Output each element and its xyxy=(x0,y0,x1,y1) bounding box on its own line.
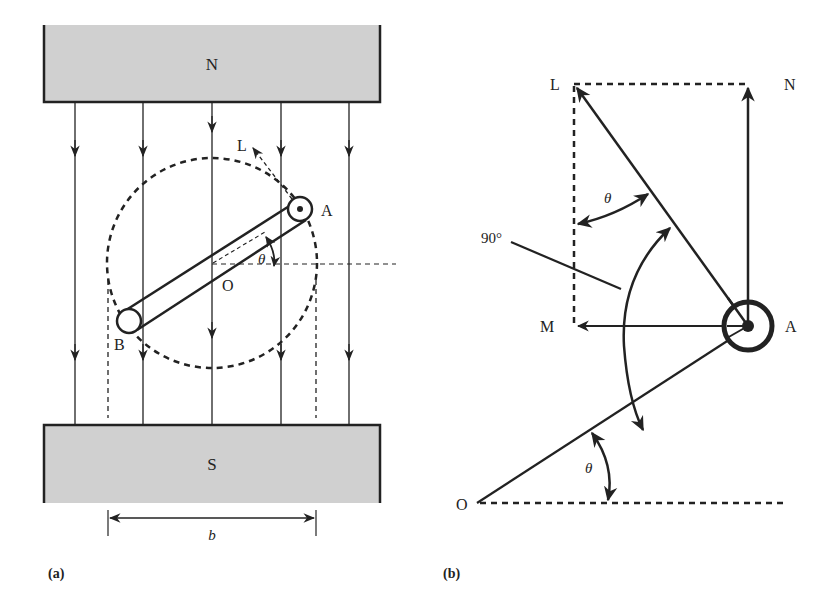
north-pole-label: N xyxy=(206,55,218,74)
velocity-arrow-l xyxy=(253,148,292,199)
label-a-b: A xyxy=(785,318,797,335)
north-magnet: N xyxy=(44,25,380,102)
label-theta-a: θ xyxy=(258,251,266,267)
south-pole-label: S xyxy=(207,455,216,474)
label-90-degrees: 90° xyxy=(481,230,502,246)
label-l-b: L xyxy=(550,76,560,93)
vector-al xyxy=(577,88,748,326)
panel-b: L N M A O θ θ 90° (b) xyxy=(443,76,797,582)
south-magnet: S xyxy=(44,425,380,503)
label-o-a: O xyxy=(222,277,234,294)
label-b-a: B xyxy=(114,336,125,353)
label-theta-top: θ xyxy=(604,190,612,206)
label-theta-bottom: θ xyxy=(585,460,593,476)
label-m-b: M xyxy=(540,318,554,335)
line-oa xyxy=(477,336,735,503)
label-o-b: O xyxy=(456,496,468,513)
label-n-b: N xyxy=(784,76,796,93)
dimension-b: b xyxy=(108,510,316,543)
coil xyxy=(117,197,312,333)
angle-arc-90 xyxy=(624,228,670,430)
caption-a: (a) xyxy=(48,566,65,582)
angle-arc-top xyxy=(578,194,648,224)
label-a-a: A xyxy=(321,202,333,219)
label-b-dimension: b xyxy=(208,527,216,543)
label-l-a: L xyxy=(237,137,247,154)
panel-a: N S xyxy=(44,25,396,582)
caption-b: (b) xyxy=(443,566,460,582)
angle-arc-bottom xyxy=(592,433,610,500)
figure-canvas: N S xyxy=(0,0,825,613)
conductor-b xyxy=(117,309,141,333)
leader-90 xyxy=(511,242,621,289)
